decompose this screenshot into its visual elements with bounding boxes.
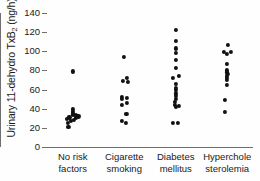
data-point <box>223 98 227 102</box>
data-point <box>174 39 178 43</box>
x-category-label-line2: smoking <box>96 163 152 175</box>
x-category-label-2: Cigarettesmoking <box>96 151 152 174</box>
x-category-label-1: No riskfactors <box>45 151 101 174</box>
data-point <box>120 103 124 107</box>
data-point <box>174 65 178 69</box>
y-tick-label: 80 <box>13 65 40 75</box>
x-category-label-line1: No risk <box>58 151 88 162</box>
y-tick-label: 140 <box>13 8 40 18</box>
data-point <box>125 96 129 100</box>
data-point <box>122 55 126 59</box>
x-category-label-line1: Hyperchole <box>203 151 251 162</box>
x-category-label-line2: mellitus <box>148 163 204 175</box>
plot-area <box>47 13 253 147</box>
x-category-label-3: Diabetesmellitus <box>148 151 204 174</box>
y-tick-label: 0 <box>13 142 40 152</box>
data-point <box>225 83 229 87</box>
y-tick-label: 100 <box>13 46 40 56</box>
y-tick-label: 40 <box>13 104 40 114</box>
data-point <box>174 28 178 32</box>
data-point <box>223 109 227 113</box>
x-category-label-line1: Diabetes <box>157 151 195 162</box>
x-category-label-line1: Cigarette <box>105 151 144 162</box>
x-category-label-line2: factors <box>45 163 101 175</box>
data-point <box>225 52 229 56</box>
scatter-plot-figure: Urinary 11-dehydro TxB2 (ng/h) 020406080… <box>0 0 260 181</box>
data-point <box>174 51 178 55</box>
data-point <box>177 74 181 78</box>
data-point <box>225 62 229 66</box>
data-point <box>71 69 75 73</box>
data-point <box>176 121 180 125</box>
data-point <box>66 125 70 129</box>
data-point <box>124 111 128 115</box>
data-point <box>124 121 128 125</box>
y-tick-0: 0 <box>0 147 260 148</box>
data-point <box>174 105 178 109</box>
y-tick-label: 20 <box>13 123 40 133</box>
y-tick-label: 120 <box>13 27 40 37</box>
y-tick-label: 60 <box>13 85 40 95</box>
x-category-label-4: Hypercholesterolemia <box>199 151 255 174</box>
x-category-label-line2: sterolemia <box>199 163 255 175</box>
data-point <box>171 76 175 80</box>
data-point <box>174 58 178 62</box>
data-point <box>125 101 129 105</box>
data-point <box>125 80 129 84</box>
y-tick-mark <box>42 147 47 148</box>
data-point <box>225 78 229 82</box>
data-point <box>171 121 175 125</box>
data-point <box>174 46 178 50</box>
data-point <box>226 42 230 46</box>
data-point <box>229 50 233 54</box>
data-point <box>120 97 124 101</box>
